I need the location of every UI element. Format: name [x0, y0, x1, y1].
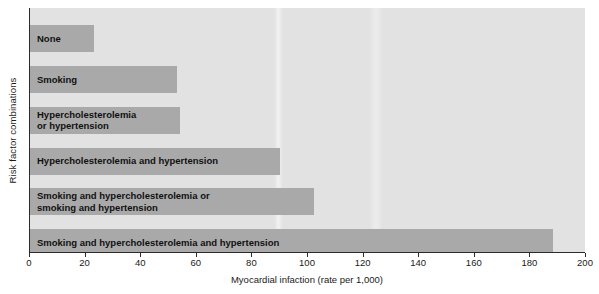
plot-area: NoneSmokingHypercholesterolemiaor hypert… — [29, 8, 585, 253]
bar-row: Hypercholesterolemia and hypertension — [30, 148, 585, 175]
x-tick-label: 160 — [466, 257, 482, 268]
x-tick-label: 20 — [79, 257, 90, 268]
bar — [30, 66, 177, 93]
bar-chart: Risk factor combinations NoneSmokingHype… — [0, 0, 599, 294]
x-axis-title: Myocardial infaction (rate per 1,000) — [29, 274, 585, 285]
x-tick-label: 80 — [246, 257, 257, 268]
x-tick-label: 0 — [26, 257, 31, 268]
bar — [30, 188, 314, 215]
x-tick-label: 60 — [191, 257, 202, 268]
x-tick-label: 180 — [521, 257, 537, 268]
bar-row: Hypercholesterolemiaor hypertension — [30, 107, 585, 134]
bar-row: Smoking — [30, 66, 585, 93]
x-tick-label: 200 — [577, 257, 593, 268]
bar-row: None — [30, 25, 585, 52]
y-axis-title: Risk factor combinations — [0, 8, 26, 253]
bar — [30, 25, 94, 52]
x-tick-label: 140 — [410, 257, 426, 268]
bar — [30, 148, 280, 175]
x-tick-label: 120 — [355, 257, 371, 268]
bar-row: Smoking and hypercholesterolemia and hyp… — [30, 229, 585, 253]
x-tick-label: 40 — [135, 257, 146, 268]
bar — [30, 229, 553, 253]
bar-row: Smoking and hypercholesterolemia orsmoki… — [30, 188, 585, 215]
bars-layer: NoneSmokingHypercholesterolemiaor hypert… — [30, 8, 585, 252]
y-axis-title-text: Risk factor combinations — [8, 78, 19, 184]
bar — [30, 107, 180, 134]
x-tick-label: 100 — [299, 257, 315, 268]
x-axis-tick-labels: 020406080100120140160180200 — [29, 257, 585, 271]
